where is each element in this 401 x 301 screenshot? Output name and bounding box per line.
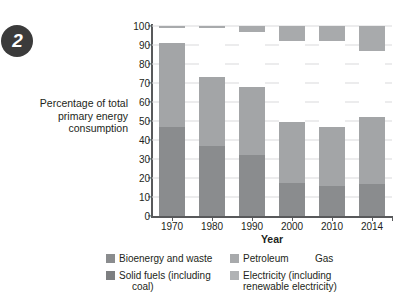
y-tick-label: 0 — [144, 211, 150, 222]
bar-segment — [319, 26, 345, 41]
x-tick-mark — [392, 216, 393, 221]
legend-label-bioenergy: Bioenergy and waste — [119, 253, 226, 265]
y-tick-label: 60 — [139, 97, 150, 108]
y-axis-title-line-3: consumption — [16, 122, 128, 135]
bar-segment — [199, 28, 225, 77]
x-tick-mark — [252, 216, 253, 221]
legend-swatch-electricity — [230, 271, 239, 280]
bar-segment — [279, 26, 305, 41]
legend-item-bioenergy-and-waste: Bioenergy and waste — [106, 253, 226, 265]
chart-figure: 2 Percentage of total primary energy con… — [0, 0, 401, 301]
bar-segment — [159, 26, 185, 28]
badge-number: 2 — [12, 30, 22, 52]
legend-label-electricity-line-2: renewable electricity) — [243, 281, 345, 293]
bar-segment — [359, 184, 385, 216]
legend-swatch-gas — [302, 254, 311, 263]
bar-segment — [279, 41, 305, 122]
bar-segment — [159, 127, 185, 216]
bar-segment — [319, 127, 345, 186]
bar-segment — [359, 117, 385, 184]
bar-segment — [199, 26, 225, 28]
legend-column-1: Bioenergy and waste Solid fuels (includi… — [106, 253, 226, 298]
y-axis-title-line-1: Percentage of total — [16, 97, 128, 110]
legend-swatch-solid-fuels — [106, 271, 115, 280]
y-tick-label: 20 — [139, 173, 150, 184]
x-tick-mark — [212, 216, 213, 221]
bar-group: 2000 — [272, 26, 312, 216]
bar-segment — [239, 32, 265, 87]
legend-label-gas: Gas — [315, 253, 372, 265]
legend-item-solid-fuels: Solid fuels (including coal) — [106, 270, 226, 293]
x-tick-mark — [332, 216, 333, 221]
x-tick-mark — [292, 216, 293, 221]
x-axis-title: Year — [152, 233, 392, 245]
bar-segment — [159, 28, 185, 43]
bar-group: 2010 — [312, 26, 352, 216]
bar-group: 1980 — [192, 26, 232, 216]
bar-segment — [199, 146, 225, 216]
bar-group: 1990 — [232, 26, 272, 216]
y-tick-label: 40 — [139, 135, 150, 146]
legend-label-solid-fuels: Solid fuels (including coal) — [119, 270, 226, 293]
y-tick-label: 30 — [139, 154, 150, 165]
y-tick-label: 70 — [139, 78, 150, 89]
legend-label-electricity-line-1: Electricity (including — [243, 270, 331, 281]
bar-segment — [359, 26, 385, 51]
y-tick-label: 80 — [139, 59, 150, 70]
bar-segment — [279, 183, 305, 216]
bar-segment — [319, 41, 345, 127]
bar-segment — [359, 51, 385, 118]
bar-segment — [239, 87, 265, 155]
bar-group: 1970 — [152, 26, 192, 216]
legend-swatch-petroleum — [230, 254, 239, 263]
legend-label-electricity: Electricity (including renewable electri… — [243, 270, 345, 293]
bar-group: 2014 — [352, 26, 392, 216]
y-tick-label: 50 — [139, 116, 150, 127]
question-number-badge: 2 — [1, 25, 33, 57]
bar-segment — [239, 26, 265, 32]
legend-label-solid-fuels-line-1: Solid fuels (including — [119, 270, 211, 281]
bar-segment — [239, 155, 265, 216]
plot-area: 0102030405060708090100197019801990200020… — [152, 26, 392, 216]
bar-segment — [319, 186, 345, 216]
legend-column-3: Gas — [302, 253, 372, 270]
x-tick-label: 2014 — [349, 221, 395, 232]
y-tick-label: 100 — [133, 21, 150, 32]
x-tick-mark — [372, 216, 373, 221]
y-tick-label: 10 — [139, 192, 150, 203]
legend-label-solid-fuels-line-2: coal) — [119, 281, 226, 293]
legend-item-gas: Gas — [302, 253, 372, 265]
bar-segment — [199, 77, 225, 145]
legend-swatch-bioenergy — [106, 254, 115, 263]
x-tick-mark — [172, 216, 173, 221]
legend-item-electricity: Electricity (including renewable electri… — [230, 270, 345, 293]
bar-segment — [159, 43, 185, 127]
y-axis-title-line-2: primary energy — [16, 110, 128, 123]
y-axis-title: Percentage of total primary energy consu… — [16, 97, 128, 135]
bar-segment — [279, 122, 305, 183]
y-tick-label: 90 — [139, 40, 150, 51]
